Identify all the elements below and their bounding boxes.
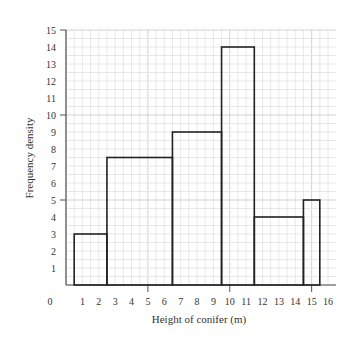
histogram-chart: 123456789101112131415 012345678910111213… (0, 0, 355, 345)
x-tick-label: 3 (113, 296, 118, 307)
y-tick-label: 1 (51, 263, 56, 274)
y-tick-label: 10 (46, 110, 56, 121)
x-tick-label: 2 (96, 296, 101, 307)
x-tick-label: 5 (145, 296, 150, 307)
y-tick-labels: 123456789101112131415 (46, 25, 56, 274)
x-tick-label: 9 (211, 296, 216, 307)
y-tick-label: 8 (51, 144, 56, 155)
x-axis-label: Height of conifer (m) (152, 313, 247, 326)
y-axis-label: Frequency density (23, 117, 35, 198)
y-tick-label: 12 (46, 76, 56, 87)
x-tick-label: 8 (195, 296, 200, 307)
y-tick-label: 4 (51, 212, 56, 223)
x-tick-label: 12 (258, 296, 268, 307)
x-tick-label: 13 (274, 296, 284, 307)
y-tick-label: 6 (51, 178, 56, 189)
x-tick-label: 14 (290, 296, 300, 307)
y-tick-label: 11 (46, 93, 56, 104)
x-tick-label: 6 (162, 296, 167, 307)
y-tick-label: 13 (46, 59, 56, 70)
y-tick-label: 3 (51, 229, 56, 240)
axes (60, 30, 336, 292)
x-tick-label: 15 (307, 296, 317, 307)
y-tick-label: 5 (51, 195, 56, 206)
y-tick-label: 9 (51, 127, 56, 138)
y-tick-label: 14 (46, 42, 56, 53)
x-tick-label: 4 (129, 296, 134, 307)
y-tick-label: 2 (51, 246, 56, 257)
x-tick-label: 11 (241, 296, 251, 307)
x-tick-label: 16 (323, 296, 333, 307)
x-tick-labels: 012345678910111213141516 (48, 296, 334, 307)
y-tick-label: 15 (46, 25, 56, 36)
y-tick-label: 7 (51, 161, 56, 172)
x-tick-label: 0 (48, 296, 53, 307)
x-tick-label: 7 (178, 296, 183, 307)
x-tick-label: 1 (80, 296, 85, 307)
x-tick-label: 10 (225, 296, 235, 307)
